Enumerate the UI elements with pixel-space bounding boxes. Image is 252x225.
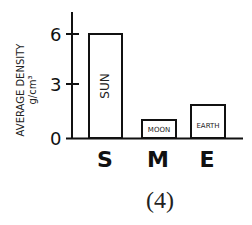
y-axis-title: AVERAGE DENSITY [15,43,26,137]
y-axis-unit: g/cm³ [27,76,38,105]
tick-label-6: 6 [50,24,61,45]
category-label-m: M [147,147,169,172]
bar-label-moon: MOON [148,126,170,134]
density-bar-chart: AVERAGE DENSITY g/cm³ 6 3 0 SUN MOON EAR… [0,0,252,225]
panel-label: (4) [146,187,174,213]
bar-label-sun: SUN [98,73,112,98]
category-label-s: S [97,147,113,172]
category-label-e: E [199,147,214,172]
bar-label-earth: EARTH [196,122,219,130]
tick-label-0: 0 [50,128,61,149]
tick-label-3: 3 [50,74,61,95]
